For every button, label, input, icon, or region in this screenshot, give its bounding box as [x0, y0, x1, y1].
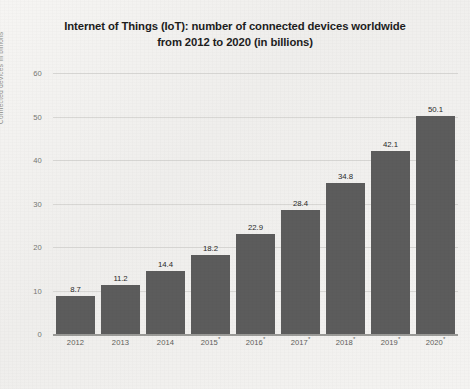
bar-value-label: 22.9	[233, 223, 278, 232]
bar-value-label: 28.4	[278, 199, 323, 208]
bar-value-label: 11.2	[98, 274, 143, 283]
x-tick-label: 2014	[143, 338, 188, 347]
y-tick-label: 50	[33, 112, 42, 121]
x-tick-label: 2015*	[188, 338, 233, 347]
bar-value-label: 8.7	[53, 285, 98, 294]
bar	[191, 255, 229, 334]
x-tick-label: 2018*	[323, 338, 368, 347]
y-tick-label: 10	[33, 286, 42, 295]
x-tick-label: 2012	[53, 338, 98, 347]
bar-value-label: 14.4	[143, 260, 188, 269]
bar-slot: 22.9	[233, 73, 278, 334]
bar	[326, 183, 364, 334]
x-tick-label: 2019*	[368, 338, 413, 347]
bar	[371, 151, 409, 334]
x-tick-label: 2016*	[233, 338, 278, 347]
bar-slot: 11.2	[98, 73, 143, 334]
y-axis-tick-labels: 0102030405060	[0, 73, 49, 334]
y-tick-label: 20	[33, 243, 42, 252]
bar	[101, 285, 139, 334]
axis-baseline	[53, 334, 458, 336]
chart-title-line-2: from 2012 to 2020 (in billions)	[26, 35, 444, 51]
y-tick-label: 40	[33, 156, 42, 165]
bar	[416, 116, 454, 334]
bar-value-label: 42.1	[368, 140, 413, 149]
bar-slot: 18.2	[188, 73, 233, 334]
bar-value-label: 18.2	[188, 244, 233, 253]
bar-series: 8.711.214.418.222.928.434.842.150.1	[53, 73, 458, 334]
y-tick-label: 60	[33, 69, 42, 78]
chart-figure: Internet of Things (IoT): number of conn…	[0, 0, 470, 389]
bar	[56, 296, 94, 334]
bar-value-label: 34.8	[323, 172, 368, 181]
bar-value-label: 50.1	[413, 105, 458, 114]
y-tick-label: 30	[33, 199, 42, 208]
x-axis-tick-labels: 2012201320142015*2016*2017*2018*2019*202…	[53, 338, 458, 356]
y-tick-label: 0	[38, 330, 42, 339]
bar-slot: 34.8	[323, 73, 368, 334]
bar	[281, 210, 319, 334]
bar-slot: 42.1	[368, 73, 413, 334]
bar-slot: 28.4	[278, 73, 323, 334]
chart-title-line-1: Internet of Things (IoT): number of conn…	[26, 19, 444, 35]
x-tick-label: 2017*	[278, 338, 323, 347]
bar-slot: 14.4	[143, 73, 188, 334]
x-tick-label: 2013	[98, 338, 143, 347]
bar-slot: 8.7	[53, 73, 98, 334]
x-tick-label: 2020*	[413, 338, 458, 347]
chart-title: Internet of Things (IoT): number of conn…	[26, 19, 444, 50]
bar-slot: 50.1	[413, 73, 458, 334]
bar	[236, 234, 274, 334]
bar	[146, 271, 184, 334]
